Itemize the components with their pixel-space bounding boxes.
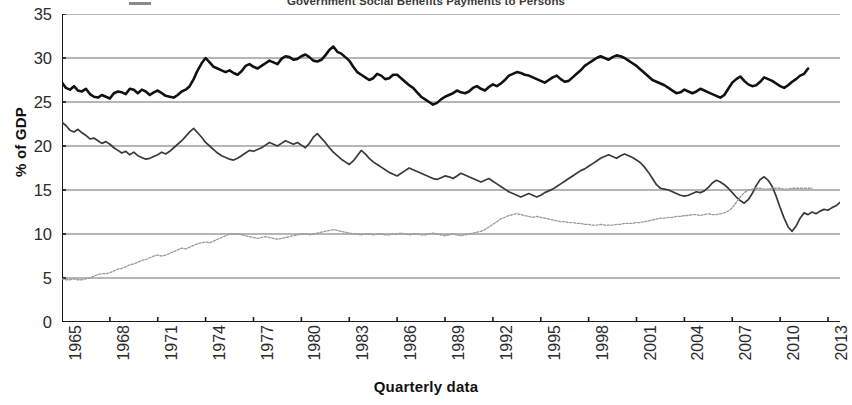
series-line-2: [62, 122, 840, 231]
x-tick-label: 1995: [547, 325, 563, 361]
y-tick-label: 15: [16, 182, 52, 199]
y-tick-label: 10: [16, 226, 52, 243]
y-tick-label: 0: [16, 314, 52, 331]
x-tick-label: 2007: [738, 325, 754, 361]
chart-root: Government Social Benefits Payments to P…: [0, 0, 852, 405]
x-tick-label: 1983: [355, 325, 371, 361]
x-tick-label: 1989: [451, 325, 467, 361]
x-tick-label: 2010: [786, 325, 802, 361]
x-tick-label: 1980: [307, 325, 323, 361]
chart-title: Government Social Benefits Payments to P…: [0, 0, 852, 9]
x-axis-tick-labels: 1965196819711974197719801983198619891992…: [62, 322, 840, 382]
chart-svg: [62, 14, 840, 322]
x-tick-label: 1986: [403, 325, 419, 361]
y-tick-label: 5: [16, 270, 52, 287]
x-tick-label: 2001: [643, 325, 659, 361]
x-tick-label: 1977: [260, 325, 276, 361]
y-tick-label: 25: [16, 94, 52, 111]
x-tick-label: 1968: [116, 325, 132, 361]
y-tick-label: 20: [16, 138, 52, 155]
x-tick-label: 2004: [690, 325, 706, 361]
x-tick-label: 1998: [595, 325, 611, 361]
title-legend-swatch: [129, 2, 151, 5]
x-axis-title: Quarterly data: [0, 378, 852, 395]
y-tick-label: 30: [16, 50, 52, 67]
y-tick-label: 35: [16, 6, 52, 23]
plot-area: [62, 14, 840, 322]
x-tick-label: 1965: [68, 325, 84, 361]
y-axis-tick-labels: 35302520151050: [8, 0, 52, 405]
x-tick-label: 1971: [164, 325, 180, 361]
series-line-1: [62, 47, 808, 105]
x-tick-label: 1992: [499, 325, 515, 361]
x-tick-label: 1974: [212, 325, 228, 361]
x-tick-label: 2013: [834, 325, 850, 361]
